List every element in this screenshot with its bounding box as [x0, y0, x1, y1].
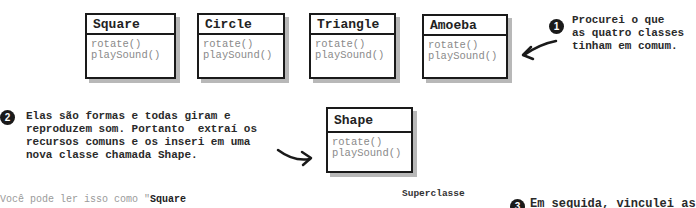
- class-name: Amoeba: [424, 16, 506, 36]
- method: playSound(): [203, 50, 283, 61]
- step-3-note: Em seguida, vinculei as: [530, 198, 696, 208]
- class-name: Square: [87, 15, 174, 35]
- step-1-badge: 1: [549, 19, 564, 34]
- class-name: Triangle: [311, 15, 394, 35]
- class-box-amoeba: Amoeba rotate() playSound(): [422, 14, 508, 79]
- class-box-triangle: Triangle rotate() playSound(): [309, 13, 396, 79]
- class-box-shape: Shape rotate() playSound(): [326, 107, 413, 173]
- step-2-badge: 2: [0, 110, 15, 125]
- method: playSound(): [91, 50, 174, 61]
- method: playSound(): [428, 51, 506, 62]
- class-box-square: Square rotate() playSound(): [85, 13, 176, 79]
- class-box-circle: Circle rotate() playSound(): [197, 13, 285, 79]
- step-3-badge: 3: [510, 199, 525, 208]
- class-name: Circle: [199, 15, 283, 35]
- class-name: Shape: [328, 109, 411, 133]
- method: playSound(): [332, 148, 411, 159]
- reading-bold-term: Square: [150, 194, 186, 205]
- step-2-note: Elas são formas e todas giram e reproduz…: [26, 110, 257, 162]
- method: playSound(): [315, 50, 394, 61]
- reading-caption: Você pode ler isso como "Square: [0, 194, 186, 205]
- superclass-label: Superclasse: [402, 188, 465, 199]
- step-1-note: Procurei o que as quatro classes tinham …: [572, 14, 684, 53]
